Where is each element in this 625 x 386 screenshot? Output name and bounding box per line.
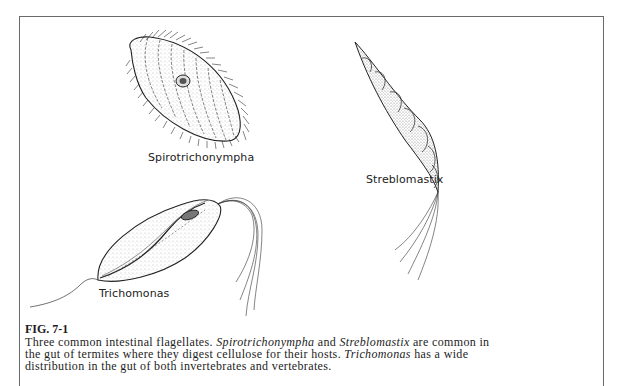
streblomastix-flagella [395, 192, 438, 280]
spirotrichonympha-nucleolus [180, 78, 187, 84]
spirotrichonympha-illustration [126, 30, 249, 149]
spirotrichonympha-body [130, 37, 240, 141]
trichomonas-posterior-flagellum [30, 279, 98, 307]
streblomastix-body [355, 42, 438, 192]
streblomastix-illustration [355, 42, 438, 280]
figure-caption: Three common intestinal flagellates. Spi… [25, 336, 505, 373]
streblomastix-label: Streblomastix [366, 173, 443, 186]
trichomonas-anterior-flagella [218, 198, 262, 316]
caption-taxon-name: Trichomonas [344, 347, 411, 361]
spirotrichonympha-label: Spirotrichonympha [148, 151, 254, 164]
trichomonas-label: Trichomonas [99, 287, 169, 300]
